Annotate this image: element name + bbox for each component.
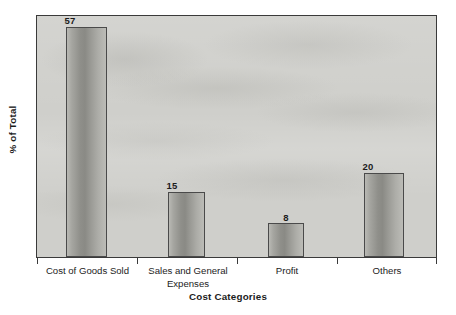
x-axis-category-label: Profit <box>237 265 337 278</box>
chart-screenshot: 57 15 8 20 Cost of Goods Sold Sales and … <box>0 0 456 315</box>
plot-area <box>36 15 437 258</box>
bar-value-label: 57 <box>45 15 95 26</box>
bar-cost-of-goods-sold <box>66 27 107 257</box>
bar-others <box>364 173 404 257</box>
x-axis-tick <box>37 258 38 264</box>
bar-profit <box>268 223 304 257</box>
x-axis-tick <box>436 258 437 264</box>
bar-value-label: 15 <box>147 180 197 191</box>
bar-value-label: 20 <box>343 161 393 172</box>
y-axis-title: % of Total <box>7 94 18 166</box>
x-axis-category-label: Others <box>337 265 437 278</box>
x-axis-title: Cost Categories <box>0 291 456 302</box>
bar-value-label: 8 <box>261 212 311 223</box>
x-axis-category-label: Cost of Goods Sold <box>30 265 145 278</box>
x-axis-category-label: Sales and General Expenses <box>133 265 243 290</box>
x-axis-tick <box>237 258 238 264</box>
x-axis-tick <box>137 258 138 264</box>
x-axis-tick <box>337 258 338 264</box>
bar-sales-and-general-expenses <box>168 192 205 257</box>
